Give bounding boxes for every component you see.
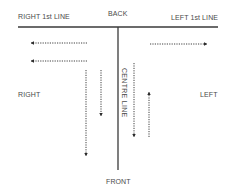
label-right-first-line: RIGHT 1st LINE [18, 13, 70, 20]
label-centre-line: CENTRE LINE [121, 68, 128, 118]
label-left: LEFT [200, 91, 218, 98]
label-left-first-line: LEFT 1st LINE [171, 14, 218, 21]
label-back: BACK [108, 10, 127, 17]
label-right: RIGHT [18, 91, 40, 98]
label-front: FRONT [106, 178, 131, 185]
